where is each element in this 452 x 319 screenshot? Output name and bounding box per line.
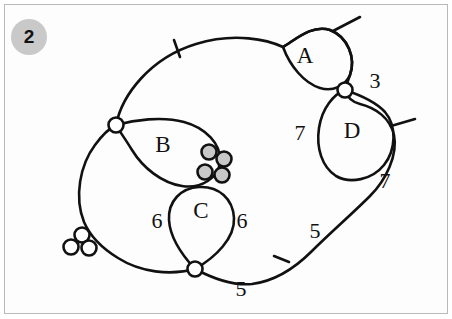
region-label-b: B xyxy=(155,132,170,157)
figure-root: A B C D 3 7 7 6 6 5 5 2 xyxy=(0,0,452,319)
node-cluster-left-lower-right[interactable] xyxy=(82,241,97,256)
figure-number-badge: 2 xyxy=(11,19,47,55)
knot-diagram: A B C D 3 7 7 6 6 5 5 xyxy=(0,0,452,319)
node-cluster-mid-lower-right[interactable] xyxy=(215,168,230,183)
node-cluster-left-lower-left[interactable] xyxy=(64,240,79,255)
tick-mark-top xyxy=(174,40,180,57)
edge-weight-7-right: 7 xyxy=(380,168,391,193)
edge-weight-5-right: 5 xyxy=(310,218,321,243)
edge-weight-5-bottom: 5 xyxy=(236,276,247,301)
node-ad[interactable] xyxy=(338,83,353,98)
node-cluster-mid-upper-left[interactable] xyxy=(202,145,217,160)
strand-a-top-right xyxy=(333,17,360,31)
edge-weight-3: 3 xyxy=(370,68,381,93)
node-b-left[interactable] xyxy=(109,118,124,133)
loop-a-curve xyxy=(283,29,352,90)
edge-weight-6-left: 6 xyxy=(152,208,163,233)
region-label-a: A xyxy=(297,43,314,68)
edge-weight-7-left: 7 xyxy=(295,120,306,145)
region-label-c: C xyxy=(193,198,208,223)
node-c-bottom[interactable] xyxy=(188,262,203,277)
node-cluster-mid-upper-right[interactable] xyxy=(217,152,232,167)
region-label-d: D xyxy=(344,118,361,143)
strand-d-right xyxy=(391,119,415,126)
node-cluster-mid-lower-left[interactable] xyxy=(198,165,213,180)
edge-weight-6-right: 6 xyxy=(237,208,248,233)
outer-boundary-curve xyxy=(79,29,395,285)
tick-mark-bottom-right xyxy=(274,256,289,262)
